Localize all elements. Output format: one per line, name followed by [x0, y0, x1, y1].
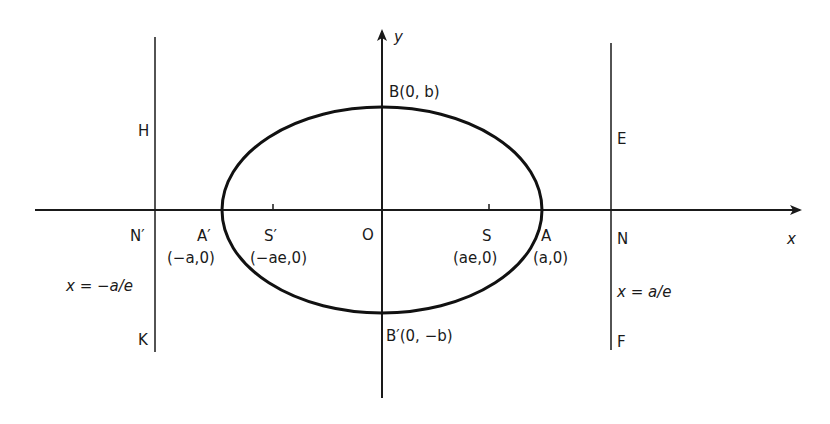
focus-s-name: S [482, 227, 492, 245]
ellipse-diagram: y x O B(0, b) B′(0, −b) A′ (−a,0) S′ (−a… [0, 0, 830, 424]
left-directrix-bottom-label: K [138, 331, 149, 349]
vertex-a-prime-name: A′ [197, 227, 211, 245]
focus-s-coords: (ae,0) [453, 249, 497, 267]
vertex-b-prime-label: B′(0, −b) [386, 327, 453, 345]
left-directrix-foot-label: N′ [130, 227, 145, 245]
left-directrix-top-label: H [138, 122, 149, 140]
y-axis-label: y [393, 28, 404, 46]
vertex-a-coords: (a,0) [533, 249, 568, 267]
right-directrix-foot-label: N [617, 230, 628, 248]
focus-s-prime-coords: (−ae,0) [250, 249, 307, 267]
x-axis-label: x [786, 230, 796, 248]
vertex-b-label: B(0, b) [389, 83, 440, 101]
right-directrix-top-label: E [617, 130, 626, 148]
focus-s-prime-name: S′ [264, 227, 278, 245]
origin-label: O [362, 226, 374, 244]
vertex-a-name: A [541, 227, 552, 245]
vertex-a-prime-coords: (−a,0) [167, 249, 215, 267]
left-directrix-equation: x = −a/e [65, 277, 133, 295]
right-directrix-bottom-label: F [617, 333, 626, 351]
right-directrix-equation: x = a/e [616, 283, 671, 301]
